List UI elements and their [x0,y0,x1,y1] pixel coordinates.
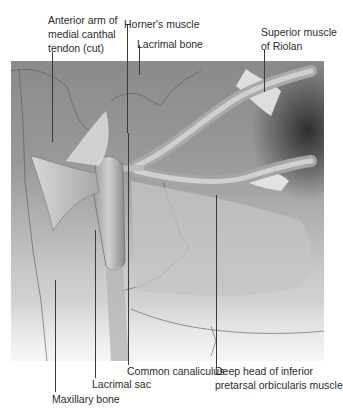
label-anterior-arm: Anterior arm of medial canthal tendon (c… [48,13,117,55]
label-lacrimal-sac: Lacrimal sac [92,377,151,391]
leader-superior-riolan [264,50,265,92]
label-maxillary-bone: Maxillary bone [52,392,120,406]
label-superior-riolan: Superior muscle of Riolan [261,25,337,53]
label-common-canaliculus: Common canaliculus [127,364,224,378]
leader-anterior-arm [52,52,53,142]
leader-lacrimal-sac [95,230,96,378]
label-horners-muscle: Horner's muscle [124,17,200,31]
leader-common-canaliculus [128,133,129,365]
label-lacrimal-bone: Lacrimal bone [137,37,203,51]
leader-horners-muscle [127,25,128,133]
anatomy-illustration [11,61,324,361]
leader-deep-head [216,195,217,367]
label-deep-head: Deep head of inferior pretarsal orbicula… [215,364,343,392]
leader-maxillary-bone [55,280,56,392]
